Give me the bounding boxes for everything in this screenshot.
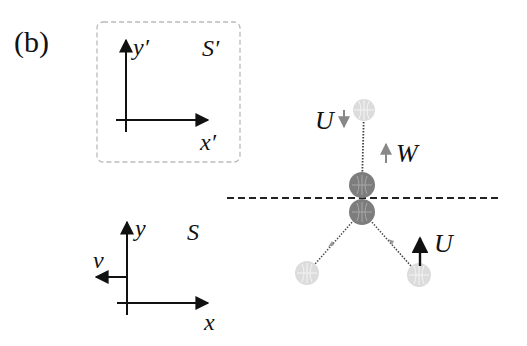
W-label: W: [396, 139, 420, 168]
ball-collision-upper: [349, 172, 375, 198]
panel-label: (b): [14, 25, 49, 59]
right-trajectory-arrow-icon: [388, 239, 394, 245]
U-outgoing-label: U: [434, 229, 455, 258]
left-trajectory-arrow-icon: [328, 241, 334, 247]
frame-lab-name: S: [187, 219, 199, 245]
ball-collision-lower: [349, 199, 375, 225]
collision-diagram: (b) y′ S′ x′ y S x v U: [0, 0, 527, 346]
ball-final-left: [295, 261, 319, 285]
x-label: x: [203, 309, 215, 335]
U-incoming-label: U: [315, 106, 336, 135]
x-prime-label: x′: [199, 129, 217, 155]
y-label: y: [133, 215, 146, 241]
v-label: v: [93, 247, 104, 273]
ball-final-right: [407, 263, 431, 287]
ball-initial: [353, 99, 375, 121]
frame-prime-name: S′: [202, 35, 220, 61]
y-prime-label: y′: [131, 34, 150, 60]
